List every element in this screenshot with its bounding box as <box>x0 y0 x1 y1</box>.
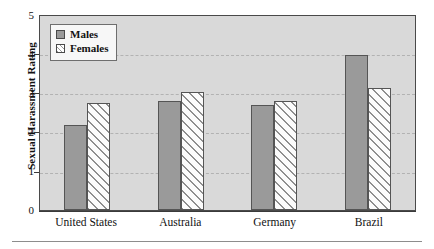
bar-group-australia <box>134 16 228 210</box>
footer-rule <box>12 241 422 242</box>
y-tick-0: 0 <box>20 205 34 216</box>
bar-chart: Sexual Harassment Rating 5 4 3 2 1 0 <box>0 0 434 249</box>
bar-females-australia <box>181 92 204 210</box>
y-tick-5: 5 <box>20 10 34 21</box>
y-tick-4: 4 <box>20 49 34 60</box>
bar-group-germany <box>228 16 322 210</box>
x-label-united-states: United States <box>39 211 133 228</box>
y-axis-ticks: 5 4 3 2 1 0 <box>12 0 34 249</box>
bar-females-brazil <box>368 88 391 210</box>
x-label-brazil: Brazil <box>322 211 416 228</box>
legend-swatch-males-icon <box>56 30 65 39</box>
bar-males-brazil <box>345 55 368 210</box>
y-tick-2: 2 <box>20 127 34 138</box>
legend-swatch-females-icon <box>56 44 65 53</box>
legend: Males Females <box>50 24 117 61</box>
y-tick-1: 1 <box>20 166 34 177</box>
bar-males-australia <box>158 101 181 210</box>
y-tick-3: 3 <box>20 88 34 99</box>
x-label-germany: Germany <box>228 211 322 228</box>
x-label-australia: Australia <box>133 211 227 228</box>
bar-females-germany <box>274 101 297 210</box>
plot-area: Males Females <box>39 15 416 211</box>
legend-label-males: Males <box>70 28 98 42</box>
bar-females-united-states <box>87 103 110 210</box>
legend-item-males: Males <box>56 28 108 42</box>
legend-label-females: Females <box>70 42 108 56</box>
legend-item-females: Females <box>56 42 108 56</box>
bar-group-brazil <box>321 16 415 210</box>
bar-males-germany <box>251 105 274 210</box>
bar-males-united-states <box>64 125 87 210</box>
x-axis-labels: United States Australia Germany Brazil <box>39 211 416 228</box>
